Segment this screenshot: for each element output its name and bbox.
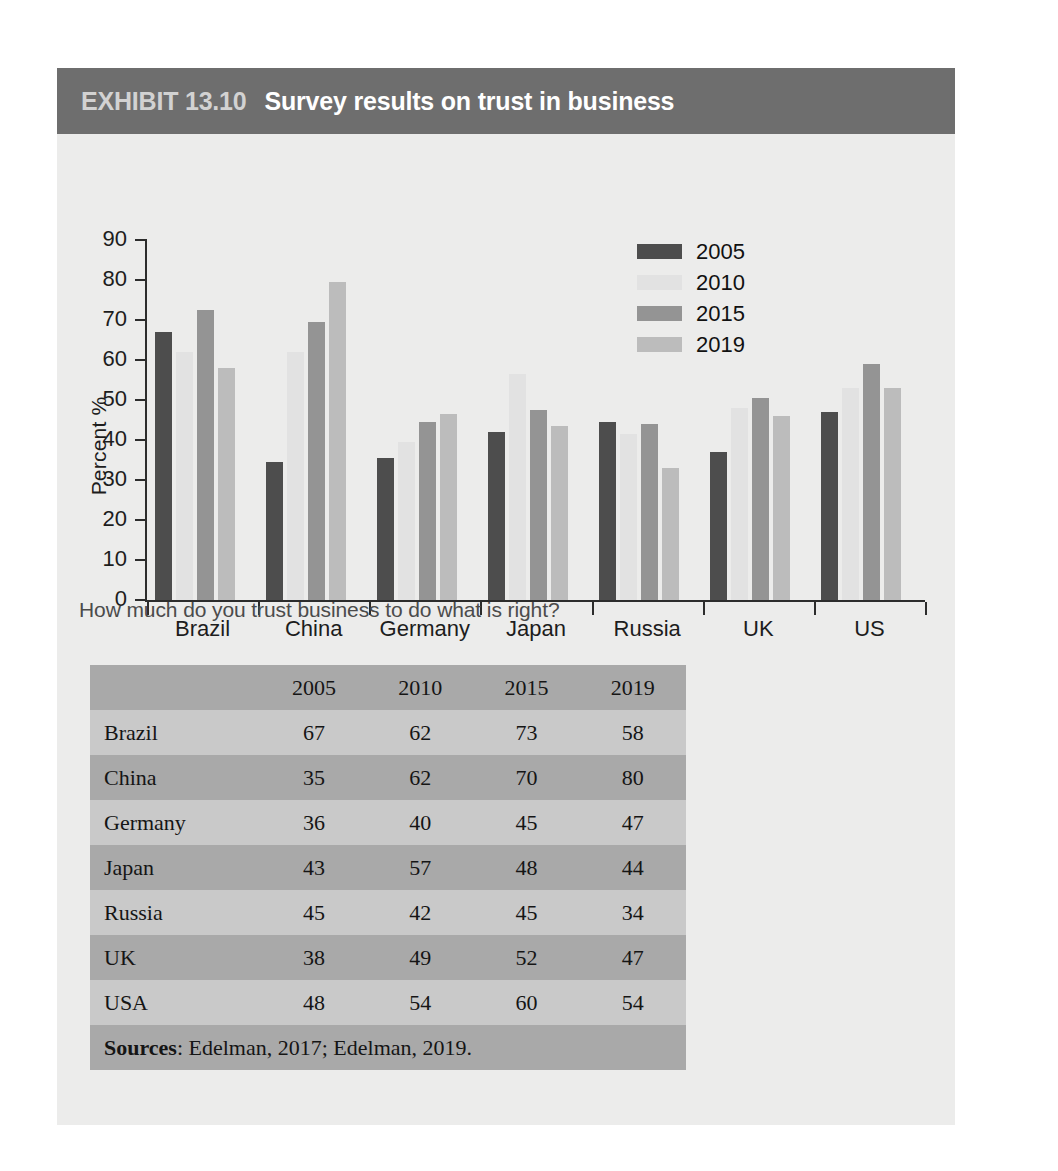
table-row: Japan43574844 (90, 845, 686, 890)
bar (710, 452, 727, 600)
x-axis-label-us: US (854, 616, 885, 642)
y-tick-mark (135, 439, 147, 441)
bar (509, 374, 526, 600)
table-cell-value: 45 (473, 890, 579, 935)
bar (842, 388, 859, 600)
bar (599, 422, 616, 600)
legend-label: 2005 (696, 239, 745, 265)
bar (773, 416, 790, 600)
bar (752, 398, 769, 600)
table-cell-value: 45 (261, 890, 367, 935)
table-head: 2005201020152019 (90, 665, 686, 710)
table-cell-value: 34 (580, 890, 686, 935)
legend-label: 2015 (696, 301, 745, 327)
y-tick-label: 90 (69, 226, 127, 252)
bar (620, 434, 637, 600)
legend-item-2005: 2005 (637, 236, 745, 267)
table-cell-value: 52 (473, 935, 579, 980)
y-axis-line (145, 240, 147, 602)
bar (530, 410, 547, 600)
y-tick-mark (135, 559, 147, 561)
bar (398, 442, 415, 600)
data-table-wrapper: 2005201020152019 Brazil67627358China3562… (90, 665, 686, 1070)
legend-swatch (637, 306, 682, 321)
y-tick-label: 60 (69, 346, 127, 372)
exhibit-number: EXHIBIT 13.10 (81, 87, 247, 116)
bar (488, 432, 505, 600)
y-tick-mark (135, 319, 147, 321)
table-header-2005: 2005 (261, 665, 367, 710)
sources-cell: Sources: Edelman, 2017; Edelman, 2019. (90, 1025, 686, 1070)
bar (662, 468, 679, 600)
sources-row: Sources: Edelman, 2017; Edelman, 2019. (90, 1025, 686, 1070)
table-cell-country: Russia (90, 890, 261, 935)
y-tick-label: 40 (69, 426, 127, 452)
table-cell-value: 48 (261, 980, 367, 1025)
table-cell-value: 45 (473, 800, 579, 845)
table-cell-value: 35 (261, 755, 367, 800)
bar (197, 310, 214, 600)
table-row: Germany36404547 (90, 800, 686, 845)
bar (287, 352, 304, 600)
bar (884, 388, 901, 600)
bar (218, 368, 235, 600)
bar (329, 282, 346, 600)
legend-label: 2010 (696, 270, 745, 296)
bar-chart: Percent % 0102030405060708090 BrazilChin… (57, 134, 955, 634)
chart-legend: 2005201020152019 (637, 236, 745, 360)
x-axis-label-russia: Russia (614, 616, 681, 642)
exhibit-card: EXHIBIT 13.10 Survey results on trust in… (57, 68, 955, 1125)
y-tick-mark (135, 359, 147, 361)
x-tick-mark (814, 602, 816, 615)
table-cell-value: 43 (261, 845, 367, 890)
table-cell-value: 44 (580, 845, 686, 890)
table-body: Brazil67627358China35627080Germany364045… (90, 710, 686, 1025)
table-foot: Sources: Edelman, 2017; Edelman, 2019. (90, 1025, 686, 1070)
legend-item-2010: 2010 (637, 267, 745, 298)
y-tick-label: 20 (69, 506, 127, 532)
table-cell-value: 60 (473, 980, 579, 1025)
bar (419, 422, 436, 600)
table-header-2015: 2015 (473, 665, 579, 710)
y-tick-mark (135, 399, 147, 401)
table-row: Brazil67627358 (90, 710, 686, 755)
bar (377, 458, 394, 600)
bar (863, 364, 880, 600)
table-cell-value: 54 (367, 980, 473, 1025)
legend-swatch (637, 337, 682, 352)
table-cell-value: 47 (580, 935, 686, 980)
y-tick-label: 80 (69, 266, 127, 292)
y-tick-label: 10 (69, 546, 127, 572)
y-tick-label: 30 (69, 466, 127, 492)
legend-item-2015: 2015 (637, 298, 745, 329)
legend-swatch (637, 275, 682, 290)
table-cell-value: 54 (580, 980, 686, 1025)
table-cell-value: 70 (473, 755, 579, 800)
data-table: 2005201020152019 Brazil67627358China3562… (90, 665, 686, 1070)
x-tick-mark (925, 602, 927, 615)
y-tick-mark (135, 519, 147, 521)
bar (440, 414, 457, 600)
table-header-row: 2005201020152019 (90, 665, 686, 710)
table-cell-country: Brazil (90, 710, 261, 755)
table-cell-value: 38 (261, 935, 367, 980)
bar (176, 352, 193, 600)
y-tick-label: 70 (69, 306, 127, 332)
y-tick-mark (135, 239, 147, 241)
bar (821, 412, 838, 600)
table-cell-value: 80 (580, 755, 686, 800)
sources-text: : Edelman, 2017; Edelman, 2019. (177, 1035, 472, 1060)
table-row: UK38495247 (90, 935, 686, 980)
legend-swatch (637, 244, 682, 259)
exhibit-header: EXHIBIT 13.10 Survey results on trust in… (57, 68, 955, 134)
bar (641, 424, 658, 600)
bar (266, 462, 283, 600)
table-cell-country: China (90, 755, 261, 800)
table-cell-value: 47 (580, 800, 686, 845)
legend-label: 2019 (696, 332, 745, 358)
table-cell-value: 42 (367, 890, 473, 935)
table-cell-value: 62 (367, 755, 473, 800)
y-tick-label: 50 (69, 386, 127, 412)
bar (731, 408, 748, 600)
table-cell-country: Japan (90, 845, 261, 890)
